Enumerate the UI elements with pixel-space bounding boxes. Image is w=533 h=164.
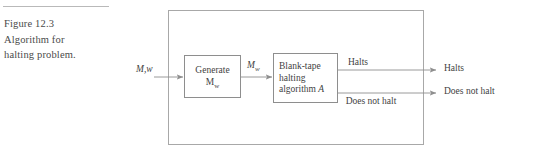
box-algorithm-line-1: Blank-tape	[279, 61, 337, 73]
box-generate-subscript-w: w	[214, 81, 219, 89]
process-box-generate: Generate Mw	[184, 55, 241, 98]
box-generate-line-1: Generate	[185, 65, 240, 77]
box-algorithm-line-2: halting	[279, 73, 337, 85]
box-algorithm-prefix: algorithm	[279, 84, 318, 94]
label-input-mw: M,w	[136, 64, 153, 76]
label-outer-halts: Halts	[444, 63, 464, 75]
box-generate-line-2: Mw	[185, 77, 240, 92]
label-inner-does-not-halt: Does not halt	[345, 96, 397, 108]
label-mw-subscript: w	[255, 65, 260, 73]
connector-lines	[0, 0, 533, 164]
label-outer-does-not-halt: Does not halt	[444, 86, 495, 98]
label-inner-halts: Halts	[348, 57, 368, 69]
figure-diagram: Generate Mw Blank-tape halting algorithm…	[0, 0, 533, 164]
process-box-halting-algorithm: Blank-tape halting algorithm A	[273, 53, 338, 103]
box-algorithm-symbol-a: A	[318, 84, 324, 94]
label-mw-base: M	[247, 60, 255, 70]
label-intermediate-mw: Mw	[247, 60, 260, 75]
box-generate-m: M	[206, 77, 214, 87]
box-algorithm-line-3: algorithm A	[279, 84, 337, 96]
